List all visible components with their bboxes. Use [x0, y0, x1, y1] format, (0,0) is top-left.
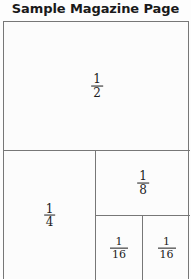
fraction-numerator: 1 — [91, 73, 103, 87]
fraction-denominator: 16 — [158, 249, 176, 261]
fraction-one-sixteenth-left: 1 16 — [110, 236, 128, 261]
ad-block-quarter-page: 1 4 — [4, 151, 96, 280]
ad-block-sixteenth-page-left: 1 16 — [96, 216, 143, 280]
fraction-denominator: 8 — [137, 184, 149, 197]
fraction-numerator: 1 — [158, 236, 176, 249]
fraction-denominator: 4 — [44, 216, 56, 229]
ad-block-sixteenth-page-right: 1 16 — [143, 216, 190, 280]
ad-block-eighth-page: 1 8 — [96, 151, 190, 216]
fraction-one-sixteenth-right: 1 16 — [158, 236, 176, 261]
fraction-denominator: 16 — [110, 249, 128, 261]
fraction-numerator: 1 — [110, 236, 128, 249]
fraction-denominator: 2 — [91, 87, 103, 100]
fraction-numerator: 1 — [44, 202, 56, 216]
magazine-page-outline: 1 2 1 4 1 8 1 16 — [3, 21, 189, 279]
page-title: Sample Magazine Page — [0, 1, 191, 17]
fraction-one-eighth: 1 8 — [137, 170, 149, 197]
fraction-numerator: 1 — [137, 170, 149, 184]
ad-block-half-page: 1 2 — [4, 22, 190, 151]
fraction-one-quarter: 1 4 — [44, 202, 56, 229]
fraction-one-half: 1 2 — [91, 73, 103, 100]
